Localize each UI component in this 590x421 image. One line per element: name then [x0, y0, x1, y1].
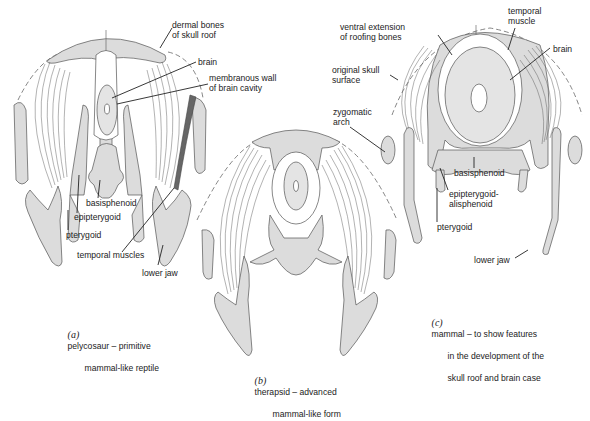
caption-b-line-1: therapsid – advanced [255, 387, 337, 397]
label-epipterygoid-alisphenoid: epipterygoid- alisphenoid [449, 189, 499, 209]
label-basisphenoid-a: basisphenoid [86, 198, 137, 208]
caption-b-tag: (b) [255, 375, 267, 386]
label-dermal-bones-of-skull-roof: dermal bones of skull roof [172, 20, 224, 40]
label-temporal-muscle: temporal muscle [508, 6, 541, 26]
label-pterygoid-a: pterygoid [66, 230, 101, 240]
label-original-skull-surface: original skull surface [332, 65, 379, 85]
label-lower-jaw-a: lower jaw [142, 268, 178, 278]
label-ventral-extension: ventral extension of roofing bones [340, 22, 405, 42]
label-zygomatic-arch: zygomatic arch [333, 107, 372, 127]
caption-a-line-1: pelycosaur – primitive [68, 341, 151, 351]
caption-panel-b: (b) therapsid – advanced mammal-like for… [245, 364, 341, 421]
label-lower-jaw-c: lower jaw [474, 255, 510, 265]
caption-panel-a: (a) pelycosaur – primitive mammal-like r… [58, 318, 159, 385]
label-epipterygoid: epipterygoid [74, 212, 121, 222]
caption-panel-c: (c) mammal – to show features in the dev… [422, 306, 544, 395]
panel-a-drawing [14, 28, 208, 266]
caption-b-line-2: mammal-like form [255, 409, 341, 419]
label-basisphenoid-c: basisphenoid [454, 168, 505, 178]
caption-c-line-3: skull roof and brain case [432, 373, 541, 383]
label-brain-a: brain [198, 57, 217, 67]
label-membranous-wall: membranous wall of brain cavity [209, 73, 276, 93]
caption-c-line-2: in the development of the [432, 351, 545, 361]
label-temporal-muscles: temporal muscles [77, 250, 144, 260]
label-pterygoid-c: pterygoid [437, 222, 472, 232]
caption-c-tag: (c) [432, 317, 443, 328]
caption-c-line-1: mammal – to show features [432, 329, 538, 339]
panel-b-drawing [197, 130, 397, 356]
caption-a-tag: (a) [68, 329, 80, 340]
caption-a-line-2: mammal-like reptile [68, 363, 160, 373]
label-brain-c: brain [553, 44, 572, 54]
